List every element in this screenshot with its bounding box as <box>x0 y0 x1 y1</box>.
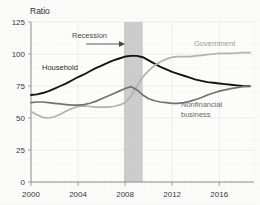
x-tick-label-2000: 2000 <box>22 190 40 199</box>
y-axis-title: Ratio <box>30 6 50 16</box>
x-axis-ticks: 20002004200820122016 <box>22 182 229 199</box>
debt-to-gdp-ratio-chart: 0255075100125 20002004200820122016 Ratio… <box>0 0 260 205</box>
y-axis-ticks: 0255075100125 <box>12 18 31 187</box>
y-tick-label-125: 125 <box>12 18 26 27</box>
series-label-government: Government <box>194 39 236 48</box>
series-label-nonfinancial-line2: business <box>181 110 211 119</box>
recession-label: Recession <box>72 31 107 40</box>
y-tick-label-75: 75 <box>16 82 25 91</box>
y-tick-label-50: 50 <box>16 114 25 123</box>
x-tick-label-2012: 2012 <box>163 190 181 199</box>
series-label-household: Household <box>42 63 78 72</box>
chart-svg: 0255075100125 20002004200820122016 Ratio… <box>0 0 260 205</box>
y-tick-label-0: 0 <box>21 178 26 187</box>
series-label-nonfinancial-line1: Nonfinancial <box>181 100 223 109</box>
y-tick-label-25: 25 <box>16 146 25 155</box>
x-tick-label-2004: 2004 <box>69 190 87 199</box>
x-tick-label-2016: 2016 <box>210 190 228 199</box>
x-tick-label-2008: 2008 <box>116 190 134 199</box>
y-tick-label-100: 100 <box>12 50 26 59</box>
